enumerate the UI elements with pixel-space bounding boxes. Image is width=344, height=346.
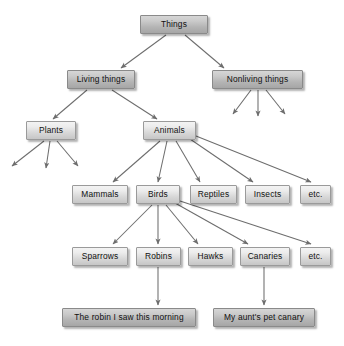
arrow-animals-to-mammals [113,141,160,182]
arrow-living-to-plants [53,90,87,119]
node-label: etc. [304,252,326,260]
node-hawks[interactable]: Hawks [188,247,233,266]
node-mammals[interactable]: Mammals [72,185,128,204]
node-etc_animals[interactable]: etc. [300,185,331,204]
arrow-animals-to-reptiles [176,141,200,182]
arrow-plants-to-dangling-6 [57,141,78,166]
edge-layer [0,0,344,346]
arrow-animals-to-insects [190,139,253,182]
arrow-nonliving-to-dangling-3 [266,90,285,114]
arrow-plants-to-dangling-4 [12,141,44,166]
node-label: Hawks [194,252,228,260]
node-label: Canaries [244,252,287,260]
node-things[interactable]: Things [140,15,208,34]
node-canary_example[interactable]: My aunt's pet canary [213,308,315,327]
node-insects[interactable]: Insects [245,185,290,204]
arrow-birds-to-canaries [175,203,248,244]
node-etc_birds[interactable]: etc. [300,247,331,266]
node-birds[interactable]: Birds [136,185,180,204]
arrow-birds-to-etc_birds [180,201,311,244]
node-label: Mammals [77,190,122,198]
node-label: Reptiles [194,190,233,198]
node-label: Things [157,20,191,28]
node-label: Living things [73,75,130,83]
node-robins[interactable]: Robins [136,247,181,266]
node-canaries[interactable]: Canaries [240,247,290,266]
concept-hierarchy-diagram: ThingsLiving thingsNonliving thingsPlant… [0,0,344,346]
node-label: Robins [141,252,176,260]
node-label: Birds [144,190,172,198]
node-label: etc. [304,190,326,198]
node-label: Plants [35,126,67,134]
arrow-plants-to-dangling-5 [46,141,50,168]
node-nonliving[interactable]: Nonliving things [212,70,303,89]
arrow-animals-to-birds [158,141,167,182]
node-robin_example[interactable]: The robin I saw this morning [62,308,196,327]
node-sparrows[interactable]: Sparrows [72,247,128,266]
arrow-birds-to-sparrows [113,205,152,244]
node-living[interactable]: Living things [67,70,135,89]
node-label: My aunt's pet canary [220,313,308,321]
arrow-living-to-animals [112,90,157,119]
arrow-things-to-nonliving [185,35,224,68]
node-label: The robin I saw this morning [70,313,187,321]
node-reptiles[interactable]: Reptiles [190,185,237,204]
node-plants[interactable]: Plants [26,121,76,140]
node-label: Insects [250,190,286,198]
node-label: Sparrows [78,252,123,260]
arrow-things-to-living [121,35,166,68]
node-label: Animals [150,126,189,134]
arrow-birds-to-hawks [166,205,198,244]
node-label: Nonliving things [223,75,293,83]
node-animals[interactable]: Animals [143,121,196,140]
arrow-nonliving-to-dangling-1 [233,90,251,114]
arrow-animals-to-etc_animals [196,136,311,182]
